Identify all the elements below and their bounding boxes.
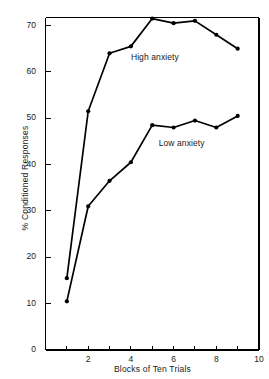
data-point-marker (150, 16, 154, 20)
x-tick-label: 2 (78, 354, 98, 364)
y-tick-label: 30 (14, 205, 36, 215)
data-point-marker (107, 51, 111, 55)
data-point-marker (214, 125, 218, 129)
y-tick-label: 20 (14, 251, 36, 261)
data-point-marker (86, 109, 90, 113)
y-tick-label: 60 (14, 66, 36, 76)
data-point-marker (236, 47, 240, 51)
y-tick-label: 50 (14, 112, 36, 122)
data-point-marker (65, 299, 69, 303)
y-axis-label: % Conditioned Responses (20, 78, 30, 278)
y-tick-label: 0 (14, 344, 36, 354)
data-point-marker (236, 114, 240, 118)
data-point-marker (150, 123, 154, 127)
y-tick-label: 70 (14, 20, 36, 30)
series-label-low-anxiety: Low anxiety (159, 138, 205, 148)
x-tick-label: 4 (121, 354, 141, 364)
data-point-marker (214, 33, 218, 37)
data-point-marker (86, 204, 90, 208)
chart-figure: % Conditioned Responses Blocks of Ten Tr… (0, 0, 269, 379)
data-point-marker (172, 125, 176, 129)
data-point-marker (193, 19, 197, 23)
x-axis-label: Blocks of Ten Trials (45, 364, 260, 374)
data-point-marker (65, 276, 69, 280)
x-tick-label: 8 (206, 354, 226, 364)
data-point-marker (172, 21, 176, 25)
x-tick-label: 10 (249, 354, 269, 364)
data-point-marker (129, 160, 133, 164)
data-point-marker (193, 118, 197, 122)
axes (46, 18, 260, 351)
x-tick-label: 6 (164, 354, 184, 364)
y-tick-label: 40 (14, 159, 36, 169)
data-point-marker (107, 179, 111, 183)
y-tick-label: 10 (14, 298, 36, 308)
axis-ticks (46, 26, 260, 351)
series-label-high-anxiety: High anxiety (131, 52, 179, 62)
series-line (67, 116, 238, 301)
data-point-marker (129, 44, 133, 48)
